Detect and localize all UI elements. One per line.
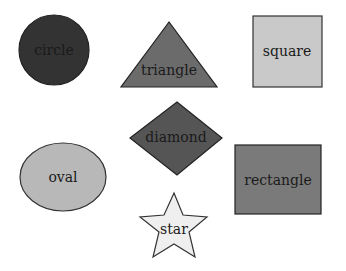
oval-label: oval bbox=[48, 169, 78, 185]
triangle-shape: triangle bbox=[121, 22, 217, 87]
shapes-diagram: circle triangle square diamond oval rect… bbox=[0, 0, 346, 271]
diamond-label: diamond bbox=[145, 129, 207, 145]
oval-shape: oval bbox=[20, 143, 106, 211]
circle-shape: circle bbox=[19, 15, 89, 85]
diamond-shape: diamond bbox=[130, 102, 222, 175]
rectangle-shape: rectangle bbox=[235, 145, 321, 214]
triangle-label: triangle bbox=[141, 62, 197, 78]
square-shape: square bbox=[253, 16, 322, 87]
square-label: square bbox=[263, 43, 312, 59]
star-shape: star bbox=[140, 193, 207, 257]
rectangle-label: rectangle bbox=[244, 172, 312, 188]
star-label: star bbox=[160, 221, 188, 237]
circle-label: circle bbox=[34, 42, 74, 58]
